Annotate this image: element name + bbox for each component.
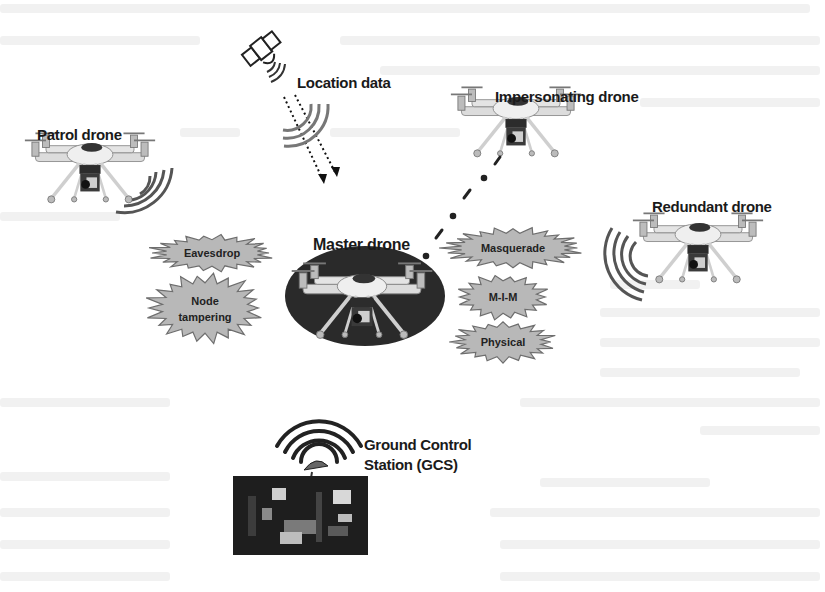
attack-label: Physical [481, 336, 526, 348]
attack-burst-eavesdrop: Eavesdrop [149, 235, 272, 272]
redundant-signal-icon [605, 228, 648, 300]
attack-label: M-I-M [489, 291, 518, 303]
burst-shape [146, 273, 261, 343]
gcs-signal-icon [277, 421, 361, 462]
attack-label: tampering [178, 311, 231, 323]
location-data-label: Location data [297, 74, 391, 91]
attack-burst-masquerade: Masquerade [439, 228, 581, 269]
patrol-drone-icon [25, 133, 155, 203]
diagram-canvas: EavesdropNodetamperingMasqueradeM-I-MPhy… [0, 0, 825, 592]
arrow-head-icon [331, 167, 340, 177]
diagram-svg: EavesdropNodetamperingMasqueradeM-I-MPhy… [0, 0, 825, 592]
arrow-head-icon [318, 174, 327, 184]
patrol-drone-label: Patrol drone [37, 126, 122, 143]
redundant-drone-icon [633, 213, 763, 283]
receiving-signal-icon [283, 104, 328, 146]
gcs-label-line2: Station (GCS) [364, 456, 458, 473]
ground-station-image [233, 476, 368, 555]
satellite-signal-icon [267, 62, 285, 82]
master-drone-label: Master drone [313, 236, 410, 254]
attack-burst-node-tampering: Nodetampering [146, 273, 261, 343]
redundant-drone-label: Redundant drone [652, 198, 772, 215]
impersonating-drone-label: Impersonating drone [495, 88, 638, 105]
attack-label: Eavesdrop [184, 247, 241, 259]
attack-label: Masquerade [481, 242, 545, 254]
attack-burst-physical: Physical [449, 322, 555, 363]
gcs-label-line1: Ground Control [364, 436, 471, 453]
attack-label: Node [191, 295, 219, 307]
attack-burst-m-i-m: M-I-M [458, 276, 547, 320]
